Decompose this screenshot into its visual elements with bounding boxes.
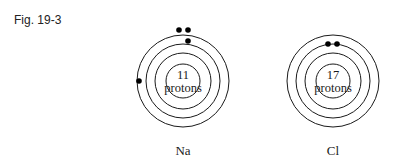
na-symbol: Na <box>175 143 190 158</box>
cl-electron <box>334 41 340 47</box>
cl-electron <box>325 41 331 47</box>
atom-cl: 17 protons Cl <box>287 35 379 158</box>
na-electron <box>185 27 191 33</box>
atom-diagram: 11 protons Na 17 protons Cl <box>0 0 409 161</box>
cl-symbol: Cl <box>327 143 340 158</box>
na-proton-count: 11 <box>177 68 189 82</box>
na-electron <box>136 78 142 84</box>
cl-proton-count: 17 <box>327 68 340 82</box>
na-electron <box>176 27 182 33</box>
cl-proton-label: protons <box>314 81 352 95</box>
atom-na: 11 protons Na <box>136 27 229 158</box>
na-proton-label: protons <box>164 81 202 95</box>
na-electron <box>185 38 191 44</box>
